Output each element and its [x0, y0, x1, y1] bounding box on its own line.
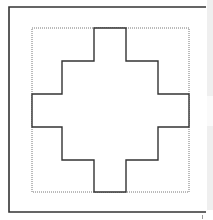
- corner-tick-mark: [202, 215, 203, 219]
- cross-diagram: [0, 0, 213, 220]
- diagram-canvas: [0, 0, 213, 220]
- stepped-cross-shape: [32, 28, 189, 192]
